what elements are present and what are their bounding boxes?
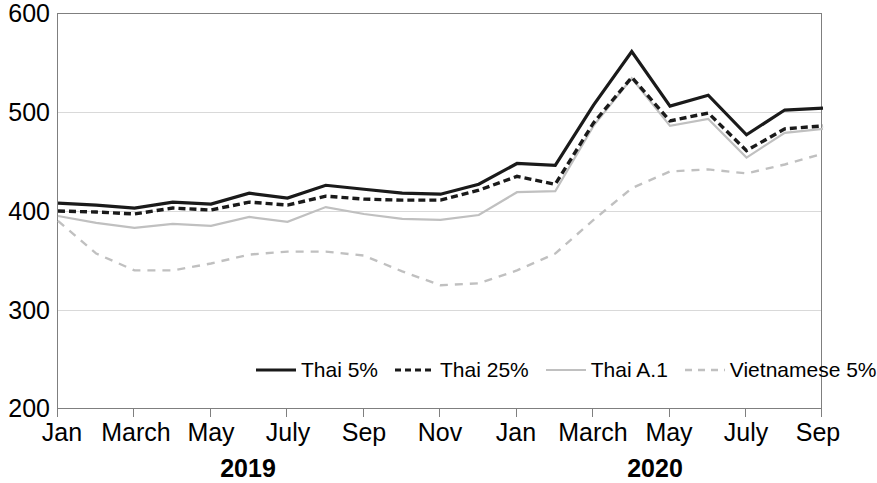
x-tick-7 <box>592 409 593 417</box>
y-axis-label-500: 500 <box>0 100 50 125</box>
x-tick-8 <box>669 409 670 417</box>
x-axis-label-sep-2020: Sep <box>796 418 840 446</box>
plot-area <box>57 13 822 409</box>
x-axis-year-2020: 2020 <box>627 455 683 481</box>
x-axis-label-sep-2019: Sep <box>342 418 386 446</box>
x-axis-label-may-2019: May <box>187 418 234 446</box>
y-axis-label-300: 300 <box>0 298 50 323</box>
legend-label-thai-a1: Thai A.1 <box>591 358 668 382</box>
x-tick-4 <box>363 409 364 417</box>
x-tick-3 <box>286 409 287 417</box>
legend-label-vietnamese-5: Vietnamese 5% <box>730 358 877 382</box>
x-tick-2 <box>210 409 211 417</box>
x-axis-label-march-2019: March <box>101 418 170 446</box>
x-tick-0 <box>57 409 58 417</box>
dashed-line-swatch <box>394 364 436 376</box>
legend-item-thai-5[interactable]: Thai 5% <box>255 358 378 382</box>
x-axis-label-july-2019: July <box>266 418 310 446</box>
solid-gray-line-swatch <box>545 364 587 376</box>
x-tick-9 <box>745 409 746 417</box>
x-axis-label-jan-2020: Jan <box>496 418 536 446</box>
dashed-gray-line-swatch <box>684 364 726 376</box>
y-axis-label-600: 600 <box>0 1 50 26</box>
legend-item-thai-25[interactable]: Thai 25% <box>394 358 529 382</box>
x-axis-label-may-2020: May <box>645 418 692 446</box>
x-tick-1 <box>133 409 134 417</box>
legend-label-thai-5: Thai 5% <box>301 358 378 382</box>
x-axis-label-nov-2019: Nov <box>418 418 462 446</box>
legend-item-vietnamese-5[interactable]: Vietnamese 5% <box>684 358 877 382</box>
y-axis: 600 500 400 300 200 <box>0 0 50 483</box>
x-axis-label-july-2020: July <box>724 418 768 446</box>
x-tick-10 <box>821 409 822 417</box>
series-line-thai-a1 <box>58 78 823 227</box>
series-lines <box>58 14 823 410</box>
x-axis-year-2019: 2019 <box>220 455 276 481</box>
legend-item-thai-a1[interactable]: Thai A.1 <box>545 358 668 382</box>
legend-label-thai-25: Thai 25% <box>440 358 529 382</box>
x-tick-6 <box>516 409 517 417</box>
x-axis-label-march-2020: March <box>558 418 627 446</box>
solid-line-swatch <box>255 364 297 376</box>
legend: Thai 5% Thai 25% Thai A.1 Vietnamese 5% <box>255 358 877 382</box>
series-line-thai-5 <box>58 52 823 208</box>
x-axis-label-jan-2019: Jan <box>42 418 82 446</box>
y-axis-label-400: 400 <box>0 199 50 224</box>
x-tick-5 <box>439 409 440 417</box>
